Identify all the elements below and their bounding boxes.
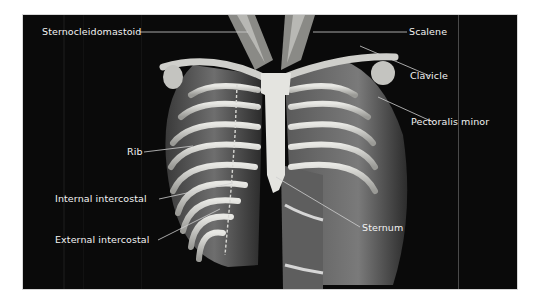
panel-divider xyxy=(458,15,459,289)
anatomy-figure-panel: Sternocleidomastoid Rib Internal interco… xyxy=(23,15,517,289)
neck-muscles xyxy=(228,15,315,70)
label-external-intercostal: External intercostal xyxy=(55,235,150,245)
label-scalene: Scalene xyxy=(409,27,447,37)
label-sternocleidomastoid: Sternocleidomastoid xyxy=(42,27,142,37)
label-rib: Rib xyxy=(127,147,143,157)
label-sternum: Sternum xyxy=(362,223,403,233)
label-internal-intercostal: Internal intercostal xyxy=(55,194,147,204)
label-pectoralis-minor: Pectoralis minor xyxy=(411,117,489,127)
label-clavicle: Clavicle xyxy=(410,71,448,81)
thoracic-cage-illustration xyxy=(23,15,517,289)
